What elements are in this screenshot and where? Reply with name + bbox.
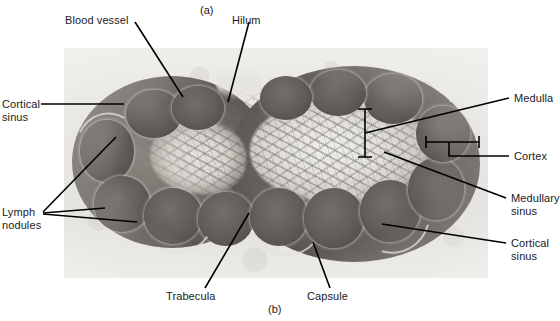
- leader-blood-vessel: [135, 22, 183, 97]
- panel-label-b: (b): [268, 303, 281, 315]
- bracket-cortex: [426, 136, 479, 148]
- label-lymph-nodules: Lymph nodules: [2, 206, 41, 231]
- leader-hilum: [228, 22, 249, 102]
- label-cortical-sinus-top: Cortical sinus: [2, 98, 40, 123]
- leader-trabecula: [205, 213, 249, 288]
- leader-medulla: [365, 98, 509, 133]
- label-cortical-sinus-bottom: Cortical sinus: [511, 237, 549, 262]
- label-trabecula: Trabecula: [166, 290, 215, 303]
- leader-medullary-sinus: [384, 152, 506, 198]
- leader-lymph-nodules-3: [43, 214, 137, 222]
- leader-lymph-nodules-1: [43, 137, 116, 212]
- leader-lymph-nodules-2: [43, 208, 105, 213]
- label-medulla: Medulla: [514, 92, 553, 105]
- label-capsule: Capsule: [307, 290, 348, 303]
- leader-capsule: [313, 242, 330, 288]
- label-medullary-sinus: Medullary sinus: [511, 192, 560, 217]
- panel-label-a: (a): [200, 4, 213, 16]
- leader-cortical-sinus-bottom: [382, 224, 506, 243]
- label-hilum: Hilum: [232, 14, 261, 27]
- label-cortex: Cortex: [514, 150, 547, 163]
- label-blood-vessel: Blood vessel: [65, 14, 129, 27]
